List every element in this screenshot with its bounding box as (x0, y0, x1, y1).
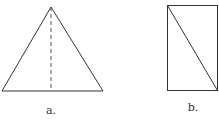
rectangle-diagonal (168, 6, 218, 91)
geometry-diagram: a. b. (0, 0, 219, 121)
figure-a-label: a. (46, 104, 56, 117)
figure-b-label: b. (188, 101, 199, 114)
triangle (2, 7, 103, 91)
figure-a-triangle: a. (2, 7, 103, 117)
figure-b-rectangle: b. (168, 6, 218, 115)
